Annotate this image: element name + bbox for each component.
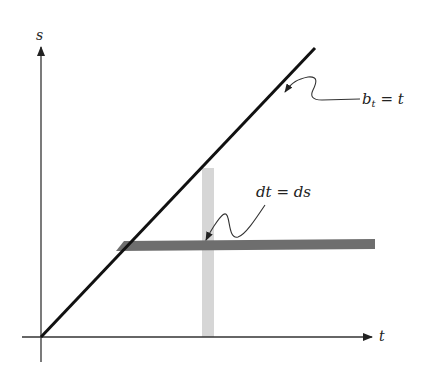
diagonal-label-rest: = t bbox=[376, 90, 405, 108]
band-label: dt = ds bbox=[256, 183, 311, 201]
pointer-arrow-dt-ds bbox=[206, 205, 265, 240]
pointer-arrow-bt bbox=[285, 77, 360, 100]
diagram-canvas: s t bt = t dt = ds bbox=[0, 0, 422, 381]
t-axis-label: t bbox=[379, 328, 385, 344]
diagonal-label: bt = t bbox=[362, 90, 405, 109]
s-axis-label: s bbox=[36, 27, 43, 43]
horizontal-band-ds bbox=[116, 239, 375, 251]
diagonal-label-base: b bbox=[362, 90, 372, 108]
vertical-band-dt bbox=[202, 168, 214, 337]
